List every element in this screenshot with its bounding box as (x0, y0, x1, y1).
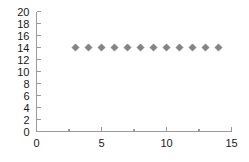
scatter-chart: 02468101214161820 051015 (0, 0, 249, 162)
y-tick-label: 2 (23, 114, 29, 126)
y-tick-label: 12 (17, 54, 29, 66)
x-tick-label: 10 (160, 137, 172, 149)
chart-canvas: 02468101214161820 051015 (0, 0, 249, 162)
y-tick-label: 14 (17, 42, 29, 54)
x-tick-label: 0 (33, 137, 39, 149)
y-tick-label: 16 (17, 30, 29, 42)
y-tick-label: 10 (17, 66, 29, 78)
y-tick-label: 20 (17, 6, 29, 18)
y-tick-label: 8 (23, 78, 29, 90)
y-tick-label: 18 (17, 18, 29, 30)
x-tick-label: 15 (225, 137, 237, 149)
y-tick-label: 0 (23, 126, 29, 138)
y-tick-label: 4 (23, 102, 29, 114)
y-tick-label: 6 (23, 90, 29, 102)
x-tick-label: 5 (98, 137, 104, 149)
